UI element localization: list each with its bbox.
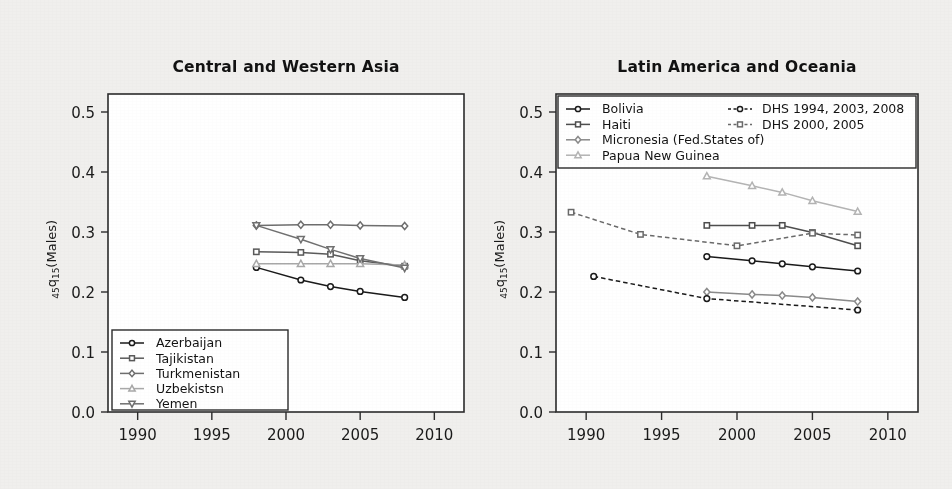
- data-point-marker: [591, 274, 597, 280]
- svg-text:45q15(Males): 45q15(Males): [492, 220, 509, 299]
- data-point-marker: [855, 232, 860, 237]
- legend-central-western-asia: AzerbaijanTajikistanTurkmenistanUzbekist…: [112, 330, 288, 411]
- y-tick-label: 0.5: [519, 104, 543, 122]
- legend-marker: [129, 340, 134, 345]
- legend-label: DHS 1994, 2003, 2008: [762, 101, 904, 116]
- x-tick-label: 2010: [415, 426, 453, 444]
- y-tick-label: 0.4: [519, 164, 543, 182]
- panel-title: Central and Western Asia: [172, 58, 399, 76]
- data-point-marker: [734, 243, 739, 248]
- data-point-marker: [810, 231, 815, 236]
- y-tick-label: 0.5: [71, 104, 95, 122]
- y-tick-label: 0.0: [519, 404, 543, 422]
- legend-label: Micronesia (Fed.States of): [602, 132, 764, 147]
- panel-latin-america-oceania: Latin America and Oceania0.00.10.20.30.4…: [492, 58, 918, 444]
- y-axis-label: 45q15(Males): [492, 220, 509, 299]
- data-point-marker: [568, 210, 573, 215]
- legend-marker: [737, 106, 742, 111]
- y-tick-label: 0.3: [71, 224, 95, 242]
- legend-label: Tajikistan: [155, 351, 214, 366]
- y-tick-label: 0.0: [71, 404, 95, 422]
- data-point-marker: [810, 264, 816, 270]
- legend-marker: [738, 122, 743, 127]
- y-tick-label: 0.3: [519, 224, 543, 242]
- data-point-marker: [357, 289, 363, 295]
- panel-title: Latin America and Oceania: [617, 58, 856, 76]
- x-tick-label: 1995: [642, 426, 680, 444]
- data-point-marker: [780, 223, 785, 228]
- legend-label: Azerbaijan: [156, 335, 222, 350]
- data-point-marker: [855, 268, 861, 274]
- x-tick-label: 2005: [341, 426, 379, 444]
- data-point-marker: [749, 258, 755, 264]
- x-tick-label: 1995: [193, 426, 231, 444]
- legend-label: Haiti: [602, 117, 631, 132]
- y-tick-label: 0.1: [71, 344, 95, 362]
- y-tick-label: 0.4: [71, 164, 95, 182]
- legend-marker: [576, 122, 581, 127]
- legend-label: Papua New Guinea: [602, 148, 720, 163]
- data-point-marker: [704, 223, 709, 228]
- legend-marker: [575, 106, 580, 111]
- data-point-marker: [402, 295, 408, 301]
- x-tick-label: 2005: [793, 426, 831, 444]
- x-tick-label: 2010: [869, 426, 907, 444]
- data-point-marker: [704, 254, 710, 260]
- legend-label: Uzbekistsn: [156, 381, 224, 396]
- data-point-marker: [298, 250, 303, 255]
- y-tick-label: 0.2: [519, 284, 543, 302]
- legend-label: Bolivia: [602, 101, 644, 116]
- legend-label: Turkmenistan: [155, 366, 240, 381]
- data-point-marker: [749, 223, 754, 228]
- data-point-marker: [298, 277, 304, 283]
- data-point-marker: [855, 307, 861, 313]
- svg-text:45q15(Males): 45q15(Males): [44, 220, 61, 299]
- y-axis-label: 45q15(Males): [44, 220, 61, 299]
- figure-canvas: Central and Western Asia0.00.10.20.30.40…: [0, 0, 952, 489]
- x-tick-label: 1990: [119, 426, 157, 444]
- data-point-marker: [638, 232, 643, 237]
- data-point-marker: [328, 284, 334, 290]
- y-tick-label: 0.2: [71, 284, 95, 302]
- panel-central-western-asia: Central and Western Asia0.00.10.20.30.40…: [44, 58, 464, 444]
- chart-svg: Central and Western Asia0.00.10.20.30.40…: [0, 0, 952, 489]
- data-point-marker: [704, 296, 710, 302]
- data-point-marker: [855, 243, 860, 248]
- x-tick-label: 2000: [267, 426, 305, 444]
- data-point-marker: [779, 261, 785, 267]
- x-tick-label: 2000: [718, 426, 756, 444]
- legend-latin-america-oceania: BoliviaHaitiMicronesia (Fed.States of)Pa…: [558, 96, 916, 168]
- x-tick-label: 1990: [567, 426, 605, 444]
- legend-label: DHS 2000, 2005: [762, 117, 865, 132]
- data-point-marker: [254, 249, 259, 254]
- legend-marker: [130, 356, 135, 361]
- legend-label: Yemen: [155, 396, 197, 411]
- y-tick-label: 0.1: [519, 344, 543, 362]
